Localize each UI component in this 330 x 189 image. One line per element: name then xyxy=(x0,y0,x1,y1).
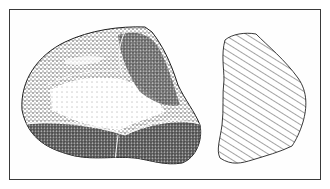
stippled-rock-view xyxy=(20,27,205,170)
cross-section-view xyxy=(218,33,306,163)
illustration xyxy=(0,0,330,189)
